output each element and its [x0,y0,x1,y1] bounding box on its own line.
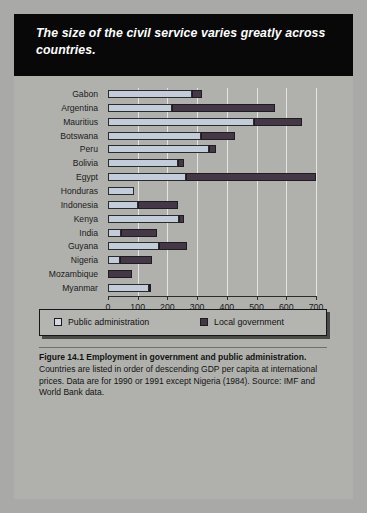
y-axis-label-mauritius: Mauritius [14,116,102,130]
figure-caption: Figure 14.1 Employment in government and… [39,352,329,399]
local-government-swatch-icon [200,318,208,326]
x-tick-500 [257,296,258,300]
bar-local-botswana [201,132,235,140]
bar-public-nigeria [108,256,120,264]
caption-title: Figure 14.1 Employment in government and… [39,352,306,362]
bar-row [108,227,316,241]
x-tick-0 [108,296,109,300]
bar-rows [108,88,316,296]
y-axis-label-bolivia: Bolivia [14,157,102,171]
bar-public-egypt [108,173,186,181]
bar-row [108,199,316,213]
bar-public-kenya [108,215,179,223]
bar-local-nigeria [120,256,151,264]
caption-divider [39,347,327,348]
chart-area: GabonArgentinaMauritiusBotswanaPeruBoliv… [14,76,353,348]
bar-public-argentina [108,104,172,112]
banner-title: The size of the civil service varies gre… [36,25,337,59]
caption-body: Countries are listed in order of descend… [39,364,317,398]
chart-legend: Public administration Local government [39,309,327,336]
bar-row [108,130,316,144]
y-axis-label-kenya: Kenya [14,213,102,227]
y-axis-label-peru: Peru [14,143,102,157]
bar-row [108,240,316,254]
bar-row [108,102,316,116]
bar-row [108,213,316,227]
gridline-700 [316,88,317,296]
figure-panel: The size of the civil service varies gre… [14,14,353,499]
legend-label-local: Local government [214,317,284,327]
bar-public-peru [108,145,209,153]
bar-public-myanmar [108,284,149,292]
bar-row [108,157,316,171]
legend-label-public: Public administration [68,317,149,327]
figure-page: The size of the civil service varies gre… [0,0,367,513]
y-axis-label-indonesia: Indonesia [14,199,102,213]
x-tick-600 [286,296,287,300]
public-administration-swatch-icon [54,318,62,326]
bar-row [108,116,316,130]
bar-row [108,143,316,157]
bar-local-india [121,229,157,237]
bar-row [108,268,316,282]
bar-row [108,88,316,102]
bar-public-guyana [108,242,159,250]
y-axis-label-honduras: Honduras [14,185,102,199]
bar-row [108,171,316,185]
y-axis-label-argentina: Argentina [14,102,102,116]
x-tick-100 [138,296,139,300]
bar-public-india [108,229,121,237]
bar-local-indonesia [138,201,178,209]
y-axis-label-india: India [14,227,102,241]
bar-local-argentina [172,104,275,112]
bar-row [108,185,316,199]
bar-local-kenya [179,215,184,223]
y-axis-label-myanmar: Myanmar [14,282,102,296]
bar-local-guyana [159,242,187,250]
y-axis-labels: GabonArgentinaMauritiusBotswanaPeruBoliv… [14,88,102,296]
bar-local-peru [209,145,216,153]
y-axis-label-nigeria: Nigeria [14,254,102,268]
bar-row [108,254,316,268]
y-axis-label-botswana: Botswana [14,130,102,144]
bar-public-bolivia [108,159,178,167]
bar-public-mauritius [108,118,254,126]
bar-local-mauritius [254,118,302,126]
x-tick-200 [167,296,168,300]
legend-item-public: Public administration [54,317,149,327]
bar-public-honduras [108,187,134,195]
bar-public-botswana [108,132,201,140]
x-tick-400 [227,296,228,300]
x-tick-700 [316,296,317,300]
bar-local-bolivia [178,159,185,167]
plot-region [108,88,316,296]
bar-local-egypt [186,173,316,181]
y-axis-label-egypt: Egypt [14,171,102,185]
y-axis-label-guyana: Guyana [14,240,102,254]
legend-item-local: Local government [200,317,284,327]
bar-public-indonesia [108,201,138,209]
y-axis-label-mozambique: Mozambique [14,268,102,282]
bar-local-myanmar [149,284,151,292]
bar-row [108,282,316,296]
bar-local-mozambique [108,270,132,278]
x-tick-300 [197,296,198,300]
y-axis-label-gabon: Gabon [14,88,102,102]
bar-local-gabon [192,90,202,98]
bar-public-gabon [108,90,192,98]
title-banner: The size of the civil service varies gre… [14,14,353,76]
